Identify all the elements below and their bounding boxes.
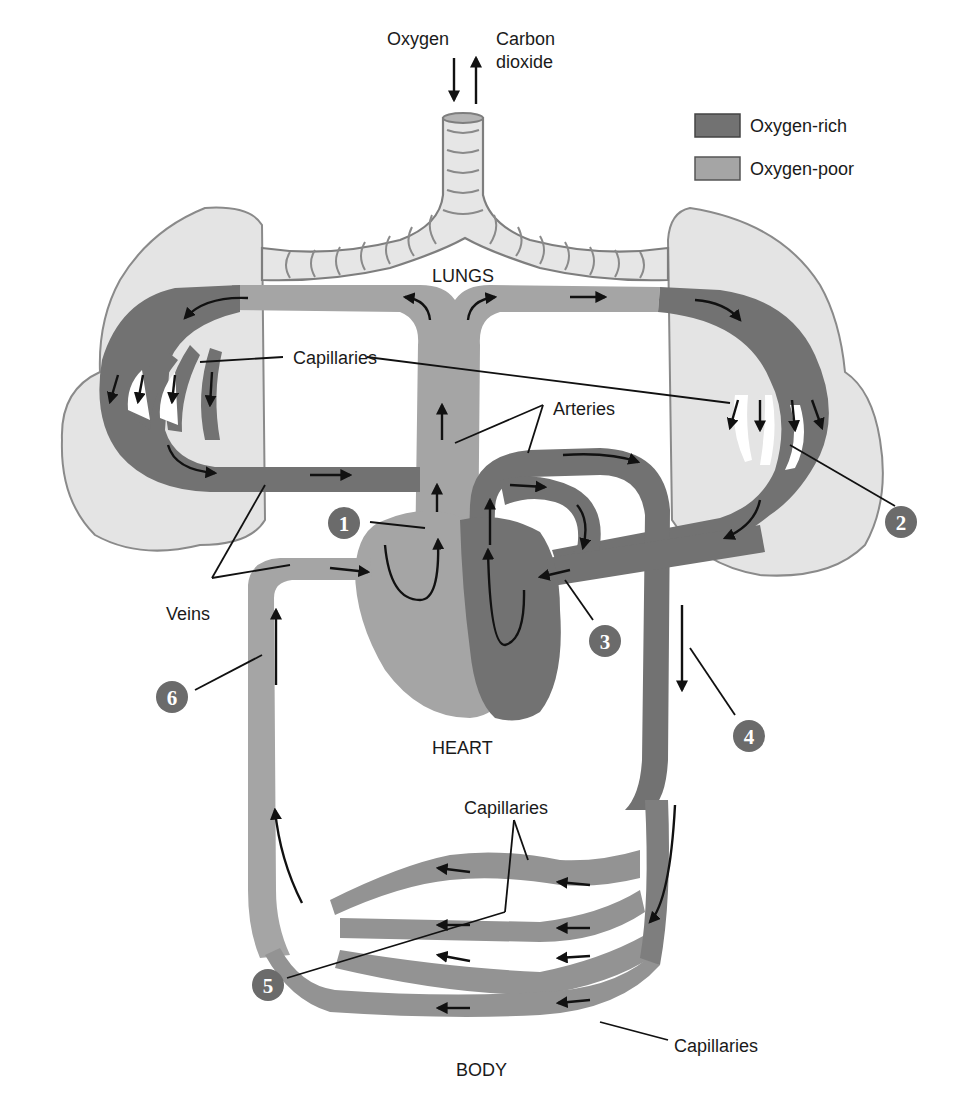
heart [355,511,561,720]
svg-text:3: 3 [600,630,611,654]
step-badge-3: 3 [589,625,621,657]
svg-text:1: 1 [339,512,350,536]
step-badge-5: 5 [252,969,284,1001]
svg-text:6: 6 [167,686,178,710]
region-label-body: BODY [456,1060,507,1080]
carbon-dioxide-label-line1: Carbon [496,29,555,49]
region-label-lungs: LUNGS [432,266,494,286]
body-capillaries [265,800,669,1017]
capillaries-body-upper-label: Capillaries [464,798,548,818]
carbon-dioxide-label-line2: dioxide [496,52,553,72]
step-badge-1: 1 [328,507,360,539]
svg-text:2: 2 [896,511,907,535]
circulation-diagram: Oxygen Carbon dioxide Oxygen-rich Oxygen… [0,0,974,1098]
oxygen-label: Oxygen [387,29,449,49]
arteries-label: Arteries [553,399,615,419]
legend-swatch-oxygen-poor [695,157,740,180]
capillaries-body-lower-label: Capillaries [674,1036,758,1056]
trachea [262,113,668,280]
step-badge-2: 2 [885,506,917,538]
svg-text:4: 4 [744,725,755,749]
capillaries-lungs-label: Capillaries [293,348,377,368]
legend-label-oxygen-poor: Oxygen-poor [750,159,854,179]
veins-label: Veins [166,604,210,624]
legend-swatch-oxygen-rich [695,114,740,137]
legend-label-oxygen-rich: Oxygen-rich [750,116,847,136]
step-badge-4: 4 [733,720,765,752]
legend: Oxygen-rich Oxygen-poor [695,114,854,180]
region-label-heart: HEART [432,738,493,758]
svg-text:5: 5 [263,974,274,998]
step-badge-6: 6 [156,681,188,713]
